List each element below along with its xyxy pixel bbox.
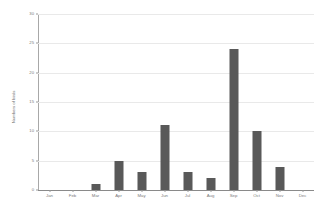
bar-slot: Oct	[245, 14, 268, 190]
y-tick-label: 20	[29, 71, 34, 75]
x-axis-baseline	[38, 190, 314, 191]
x-tick-mark	[72, 190, 73, 192]
bar[interactable]	[183, 172, 192, 190]
x-tick-mark	[210, 190, 211, 192]
x-tick-label: Oct	[253, 194, 260, 198]
bar-slot: May	[130, 14, 153, 190]
x-tick-label: Dec	[299, 194, 307, 198]
bar-chart: Numbers of birds 051015202530 JanFebMarA…	[0, 0, 323, 213]
bar-slot: Aug	[199, 14, 222, 190]
bar-slot: Mar	[84, 14, 107, 190]
y-tick-label: 0	[32, 188, 34, 192]
y-tick-label: 30	[29, 12, 34, 16]
x-tick-label: Feb	[69, 194, 76, 198]
x-tick-mark	[187, 190, 188, 192]
x-tick-label: Nov	[276, 194, 284, 198]
bar[interactable]	[252, 131, 261, 190]
bar-series: JanFebMarAprMayJunJulAugSepOctNovDec	[38, 14, 314, 190]
x-tick-mark	[141, 190, 142, 192]
y-axis-title: Numbers of birds	[12, 90, 16, 123]
x-tick-mark	[164, 190, 165, 192]
x-tick-label: Jun	[161, 194, 168, 198]
x-tick-mark	[302, 190, 303, 192]
bar[interactable]	[137, 172, 146, 190]
bar[interactable]	[229, 49, 238, 190]
bar-slot: Apr	[107, 14, 130, 190]
bar-slot: Nov	[268, 14, 291, 190]
bar-slot: Jan	[38, 14, 61, 190]
x-tick-label: Sep	[230, 194, 238, 198]
bar-slot: Dec	[291, 14, 314, 190]
x-tick-mark	[95, 190, 96, 192]
bar-slot: Jun	[153, 14, 176, 190]
x-tick-label: Jan	[46, 194, 53, 198]
bar-slot: Sep	[222, 14, 245, 190]
bar-slot: Feb	[61, 14, 84, 190]
y-tick-label: 15	[29, 100, 34, 104]
x-tick-mark	[49, 190, 50, 192]
x-tick-mark	[233, 190, 234, 192]
bar[interactable]	[206, 178, 215, 190]
x-tick-label: Jul	[185, 194, 191, 198]
bar[interactable]	[275, 167, 284, 190]
x-tick-mark	[279, 190, 280, 192]
x-tick-mark	[118, 190, 119, 192]
x-tick-label: May	[137, 194, 145, 198]
x-tick-label: Apr	[115, 194, 122, 198]
plot-area: 051015202530 JanFebMarAprMayJunJulAugSep…	[38, 14, 314, 190]
y-tick-label: 25	[29, 41, 34, 45]
x-tick-mark	[256, 190, 257, 192]
y-tick-label: 5	[32, 159, 34, 163]
y-tick-label: 10	[29, 129, 34, 133]
x-tick-label: Aug	[207, 194, 215, 198]
bar[interactable]	[160, 125, 169, 190]
x-tick-label: Mar	[92, 194, 99, 198]
bar-slot: Jul	[176, 14, 199, 190]
bar[interactable]	[114, 161, 123, 190]
